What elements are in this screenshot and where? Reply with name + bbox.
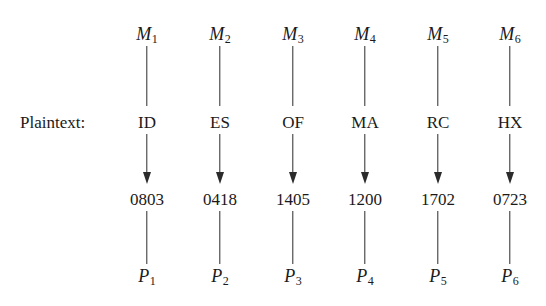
node-numeric-encodings-6: 0723 [493,191,527,208]
arrowhead-icon [506,172,514,184]
connector-symbol-to-digraph-col5 [432,46,444,106]
connector-number-to-symbol-col6 [504,211,516,264]
connector-digraph-to-number-col1 [141,134,153,184]
connector-shaft [219,211,220,264]
connector-shaft [437,211,438,264]
arrowhead-icon [216,172,224,184]
node-base-letter: P [501,266,512,286]
node-plaintext-digraphs-4: MA [351,114,378,131]
node-subscript: 3 [296,274,302,288]
node-base-letter: M [209,24,224,44]
node-message-symbols-2: M2 [209,25,231,45]
connector-shaft [219,46,220,106]
connector-digraph-to-number-col3 [287,134,299,184]
node-message-symbols-5: M5 [427,25,449,45]
node-numeric-encodings-3: 1405 [276,191,310,208]
arrowhead-icon [289,172,297,184]
connector-number-to-symbol-col1 [141,211,153,264]
connector-shaft [146,211,147,264]
node-base-letter: P [284,266,295,286]
node-subscript: 4 [368,274,374,288]
node-plaintext-digraphs-5: RC [427,114,450,131]
node-numeric-encodings-5: 1702 [421,191,455,208]
connector-shaft [509,211,510,264]
connector-shaft [292,46,293,106]
connector-symbol-to-digraph-col2 [214,46,226,106]
node-message-symbols-6: M6 [499,25,521,45]
connector-shaft [437,134,438,173]
node-subscript: 5 [443,32,449,46]
node-message-symbols-4: M4 [354,25,376,45]
node-subscript: 6 [515,32,521,46]
node-plaintext-digraphs-3: OF [282,114,304,131]
connector-shaft [437,46,438,106]
connector-digraph-to-number-col5 [432,134,444,184]
node-numeric-encodings-1: 0803 [130,191,164,208]
connector-number-to-symbol-col2 [214,211,226,264]
node-subscript: 3 [298,32,304,46]
node-message-symbols-3: M3 [282,25,304,45]
node-base-letter: M [427,24,442,44]
node-plaintext-symbols-4: P4 [356,267,374,287]
node-base-letter: M [136,24,151,44]
connector-symbol-to-digraph-col1 [141,46,153,106]
node-plaintext-digraphs-6: HX [498,114,523,131]
connector-number-to-symbol-col4 [359,211,371,264]
node-plaintext-symbols-3: P3 [284,267,302,287]
connector-digraph-to-number-col2 [214,134,226,184]
node-plaintext-symbols-5: P5 [429,267,447,287]
node-plaintext-symbols-6: P6 [501,267,519,287]
arrowhead-icon [361,172,369,184]
connector-shaft [509,134,510,173]
node-subscript: 2 [225,32,231,46]
connector-number-to-symbol-col5 [432,211,444,264]
node-subscript: 4 [370,32,376,46]
node-subscript: 6 [513,274,519,288]
node-base-letter: M [499,24,514,44]
node-base-letter: P [138,266,149,286]
node-plaintext-symbols-1: P1 [138,267,156,287]
node-plaintext-digraphs-2: ES [210,114,230,131]
connector-number-to-symbol-col3 [287,211,299,264]
plaintext-row-label: Plaintext: [20,114,85,131]
connector-shaft [292,211,293,264]
node-subscript: 1 [150,274,156,288]
node-plaintext-symbols-2: P2 [211,267,229,287]
node-message-symbols-1: M1 [136,25,158,45]
arrowhead-icon [434,172,442,184]
node-plaintext-digraphs-1: ID [138,114,156,131]
arrowhead-icon [143,172,151,184]
node-subscript: 1 [152,32,158,46]
node-base-letter: M [282,24,297,44]
node-numeric-encodings-4: 1200 [348,191,382,208]
connector-symbol-to-digraph-col3 [287,46,299,106]
connector-shaft [146,46,147,106]
node-numeric-encodings-2: 0418 [203,191,237,208]
connector-symbol-to-digraph-col6 [504,46,516,106]
connector-shaft [364,211,365,264]
connector-shaft [219,134,220,173]
node-base-letter: P [211,266,222,286]
connector-shaft [364,134,365,173]
node-subscript: 5 [441,274,447,288]
connector-symbol-to-digraph-col4 [359,46,371,106]
connector-shaft [292,134,293,173]
connector-shaft [364,46,365,106]
node-subscript: 2 [223,274,229,288]
node-base-letter: P [429,266,440,286]
connector-digraph-to-number-col6 [504,134,516,184]
node-base-letter: P [356,266,367,286]
plaintext-mapping-diagram: Plaintext:M1M2M3M4M5M6IDESOFMARCHX080304… [0,0,546,306]
node-base-letter: M [354,24,369,44]
connector-digraph-to-number-col4 [359,134,371,184]
connector-shaft [146,134,147,173]
connector-shaft [509,46,510,106]
